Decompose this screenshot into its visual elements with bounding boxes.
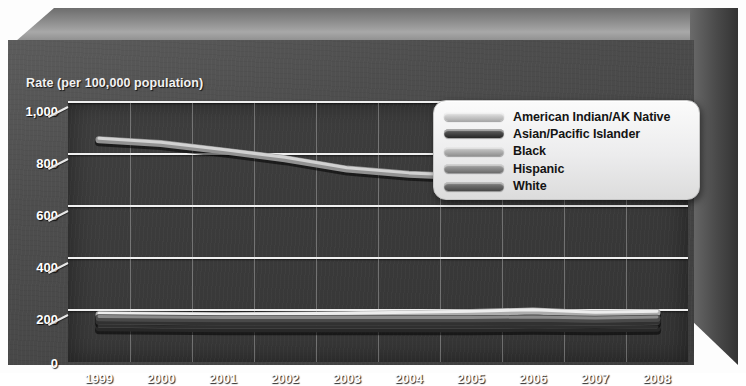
legend-item-black[interactable]: Black — [444, 143, 546, 160]
legend-label: Asian/Pacific Islander — [513, 127, 640, 141]
legend-label: Hispanic — [513, 162, 564, 176]
legend-swatch-icon — [444, 182, 504, 191]
chart-3d-slab: Rate (per 100,000 population) 0200400600… — [8, 8, 738, 365]
x-axis-tick-2000: 2000 — [147, 372, 175, 386]
y-axis-title: Rate (per 100,000 population) — [26, 76, 203, 90]
legend-label: Black — [513, 144, 546, 158]
legend-item-american-indian-ak-native[interactable]: American Indian/AK Native — [444, 108, 670, 125]
legend-item-hispanic[interactable]: Hispanic — [444, 160, 564, 177]
x-axis-tick-2004: 2004 — [395, 372, 423, 386]
x-axis-tick-2008: 2008 — [643, 372, 671, 386]
legend-label: American Indian/AK Native — [513, 110, 670, 124]
legend-swatch-icon — [444, 147, 504, 156]
x-axis-tick-2001: 2001 — [209, 372, 237, 386]
legend-swatch-icon — [444, 164, 504, 173]
chart-face: Rate (per 100,000 population) 0200400600… — [8, 40, 694, 365]
chart-legend: American Indian/AK NativeAsian/Pacific I… — [433, 100, 700, 200]
x-axis-tick-2003: 2003 — [333, 372, 361, 386]
legend-item-asian-pacific-islander[interactable]: Asian/Pacific Islander — [444, 125, 640, 142]
x-axis-tick-2005: 2005 — [457, 372, 485, 386]
x-axis-tick-2002: 2002 — [271, 372, 299, 386]
legend-item-white[interactable]: White — [444, 178, 547, 195]
y-axis-tick-0: 0 — [8, 356, 58, 371]
legend-swatch-icon — [444, 112, 504, 121]
legend-swatch-icon — [444, 129, 504, 138]
x-axis-tick-2006: 2006 — [519, 372, 547, 386]
x-axis-tick-2007: 2007 — [581, 372, 609, 386]
x-axis-tick-1999: 1999 — [85, 372, 113, 386]
legend-label: White — [513, 179, 547, 193]
